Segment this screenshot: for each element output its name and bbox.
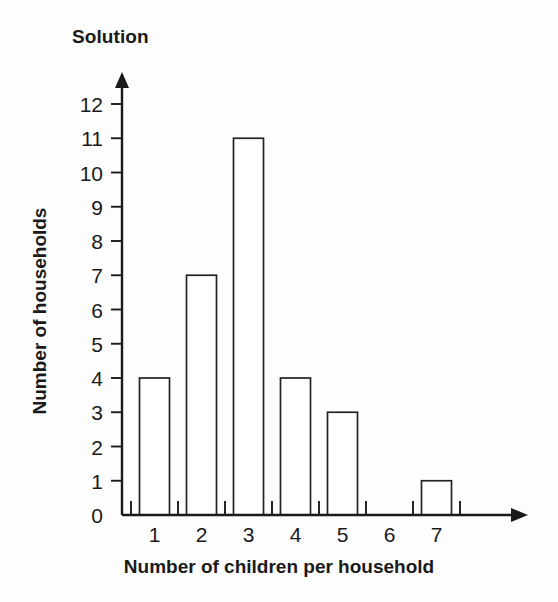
y-tick-label-4: 4 — [91, 367, 103, 390]
y-tick-label-12: 12 — [80, 93, 103, 116]
y-tick-label-5: 5 — [91, 333, 103, 356]
bar-1 — [140, 378, 170, 515]
x-tick-label-7: 7 — [431, 523, 443, 546]
x-tick-label-1: 1 — [149, 523, 161, 546]
y-tick-label-8: 8 — [91, 230, 103, 253]
y-tick-label-2: 2 — [91, 436, 103, 459]
y-tick-label-9: 9 — [91, 196, 103, 219]
bar-2 — [187, 275, 217, 515]
bar-4 — [281, 378, 311, 515]
plot-area: 0123456789101112 1234567 — [0, 0, 558, 602]
x-tick-label-3: 3 — [243, 523, 255, 546]
bar-7 — [422, 481, 452, 515]
x-axis-arrow-icon — [511, 508, 528, 522]
y-tick-label-1: 1 — [91, 470, 103, 493]
axes-group — [115, 72, 528, 522]
y-tick-label-7: 7 — [91, 264, 103, 287]
bar-5 — [328, 412, 358, 515]
y-tick-group: 0123456789101112 — [80, 93, 122, 527]
bar-3 — [234, 138, 264, 515]
y-axis-arrow-icon — [115, 72, 129, 88]
y-tick-label-0: 0 — [91, 504, 103, 527]
x-tick-label-2: 2 — [196, 523, 208, 546]
x-tick-label-6: 6 — [384, 523, 396, 546]
y-tick-label-3: 3 — [91, 401, 103, 424]
x-tick-label-4: 4 — [290, 523, 302, 546]
bars-group — [140, 138, 452, 515]
x-tick-label-5: 5 — [337, 523, 349, 546]
y-tick-label-6: 6 — [91, 299, 103, 322]
y-tick-label-10: 10 — [80, 162, 103, 185]
y-tick-label-11: 11 — [81, 127, 103, 150]
chart-container: Solution Number of households Number of … — [0, 0, 558, 602]
